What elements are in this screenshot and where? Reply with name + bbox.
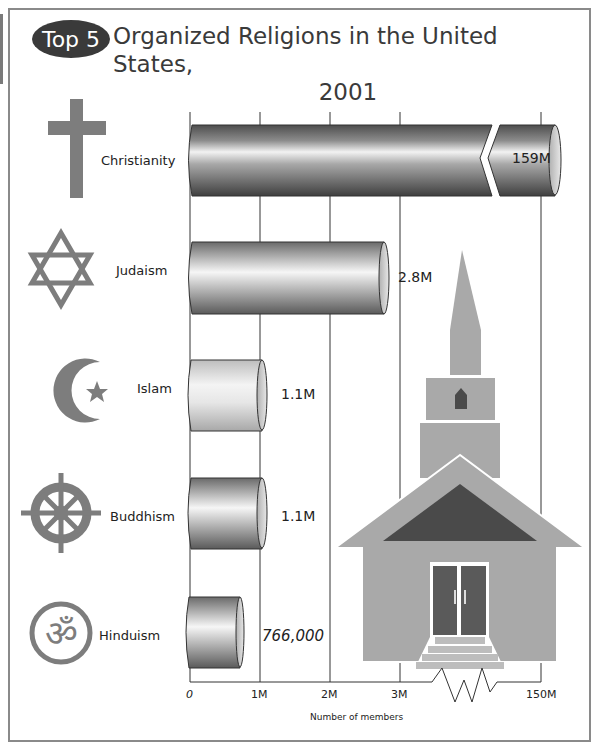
svg-text:ॐ: ॐ [45, 613, 78, 654]
om-icon: ॐ [32, 604, 90, 662]
row-label-judaism: Judaism [116, 263, 167, 278]
value-label-hinduism: 766,000 [262, 627, 324, 645]
row-label-christianity: Christianity [101, 153, 175, 168]
dharma-wheel-icon [21, 473, 101, 553]
value-label-islam: 1.1M [281, 386, 315, 402]
crescent-star-icon [53, 359, 108, 423]
bar-buddhism [188, 478, 267, 549]
axis-break-zigzag [432, 668, 497, 702]
bar-judaism [189, 242, 390, 314]
bar-christianity [189, 125, 562, 196]
x-tick-1m: 1M [251, 688, 268, 701]
x-tick-150m: 150M [526, 688, 557, 701]
bar-hinduism [186, 597, 244, 668]
x-tick-2m: 2M [321, 688, 338, 701]
x-tick-3m: 3M [391, 688, 408, 701]
value-label-buddhism: 1.1M [281, 508, 315, 524]
x-axis-label: Number of members [310, 712, 403, 722]
row-label-buddhism: Buddhism [110, 509, 175, 524]
value-label-judaism: 2.8M [398, 269, 432, 285]
star-of-david-icon [32, 233, 90, 305]
x-tick-0: 0 [186, 688, 193, 701]
row-label-hinduism: Hinduism [99, 628, 160, 643]
bar-islam [188, 360, 267, 431]
value-label-christianity: 159M [512, 150, 551, 166]
cross-icon [48, 99, 106, 198]
row-label-islam: Islam [137, 381, 172, 396]
